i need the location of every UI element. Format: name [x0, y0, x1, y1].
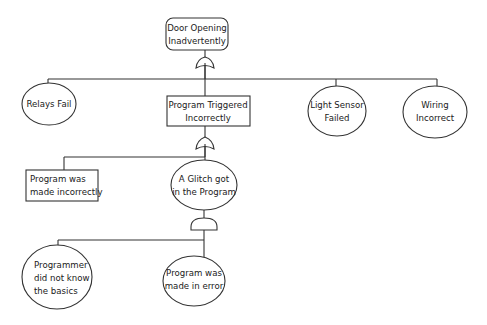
or-gate-icon	[196, 57, 214, 79]
connectors-level-2	[64, 126, 205, 170]
node-light-sensor[interactable]: Light Sensor Failed	[308, 86, 366, 136]
node-label: Programmer	[34, 260, 88, 270]
node-label: Inadvertently	[168, 36, 226, 46]
node-label: made in error	[165, 281, 224, 291]
node-label: Program was	[166, 268, 222, 278]
node-label: Incorrect	[416, 113, 455, 123]
node-label: Program Triggered	[168, 100, 247, 110]
node-top-event[interactable]: Door Opening Inadvertently	[166, 18, 228, 50]
node-label: made incorrectly	[30, 187, 103, 197]
node-program-error[interactable]: Program was made in error	[163, 256, 225, 306]
fault-tree-diagram: Door Opening Inadvertently Relays Fail P…	[0, 0, 487, 325]
node-label: A Glitch got	[179, 174, 230, 184]
node-label: Incorrectly	[185, 113, 231, 123]
node-program-made-incorrectly[interactable]: Program was made incorrectly	[26, 170, 103, 201]
node-program-triggered[interactable]: Program Triggered Incorrectly	[167, 96, 250, 126]
node-label: Light Sensor	[310, 100, 364, 110]
node-label: did not know	[34, 273, 90, 283]
connectors-level-1	[48, 50, 437, 96]
or-gate-icon	[196, 137, 214, 157]
node-wiring[interactable]: Wiring Incorrect	[403, 86, 467, 138]
node-glitch[interactable]: A Glitch got in the Program	[171, 160, 237, 210]
node-label: Program was	[30, 174, 86, 184]
connectors-level-3	[58, 210, 204, 257]
and-gate-icon	[191, 218, 217, 230]
node-label: Wiring	[421, 100, 449, 110]
node-label: in the Program	[172, 187, 236, 197]
node-label: the basics	[34, 286, 78, 296]
node-label: Door Opening	[167, 23, 227, 33]
node-label: Relays Fail	[26, 99, 71, 109]
node-programmer-basics[interactable]: Programmer did not know the basics	[22, 245, 92, 309]
node-label: Failed	[325, 113, 350, 123]
node-relays-fail[interactable]: Relays Fail	[22, 83, 76, 125]
